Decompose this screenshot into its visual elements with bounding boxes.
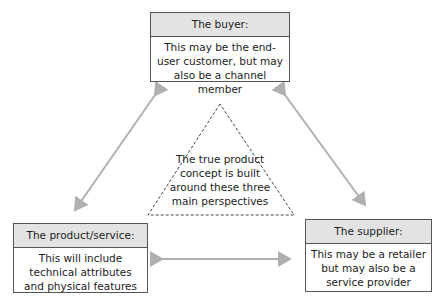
center-text: The true product concept is built around… (168, 152, 272, 208)
supplier-box: The supplier: This may be a retailer but… (305, 219, 432, 292)
arrow-buyer-product (75, 95, 155, 210)
product-box: The product/service: This will include t… (13, 223, 148, 293)
product-title: The product/service: (14, 224, 147, 248)
arrow-buyer-supplier (285, 95, 365, 205)
buyer-title: The buyer: (151, 13, 289, 37)
supplier-title: The supplier: (306, 220, 431, 244)
supplier-description: This may be a retailer but may also be a… (306, 244, 431, 292)
product-description: This will include technical attributes a… (14, 248, 147, 296)
buyer-description: This may be the end-user customer, but m… (151, 37, 289, 99)
buyer-box: The buyer: This may be the end-user cust… (150, 12, 290, 82)
